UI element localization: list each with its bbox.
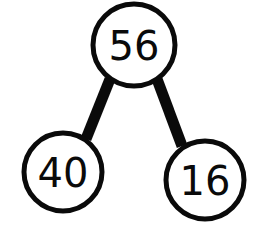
binary-tree-diagram: 56 40 16 bbox=[0, 0, 267, 230]
edge-root-to-right-child bbox=[157, 79, 182, 146]
tree-node-left-child[interactable]: 40 bbox=[24, 133, 102, 211]
tree-canvas: 56 40 16 bbox=[0, 0, 267, 230]
tree-node-root[interactable]: 56 bbox=[93, 4, 175, 86]
left-child-node-label: 40 bbox=[38, 150, 89, 196]
tree-node-right-child[interactable]: 16 bbox=[166, 141, 244, 219]
root-node-label: 56 bbox=[109, 23, 160, 69]
edge-root-to-left-child bbox=[86, 79, 110, 139]
right-child-node-label: 16 bbox=[180, 158, 231, 204]
